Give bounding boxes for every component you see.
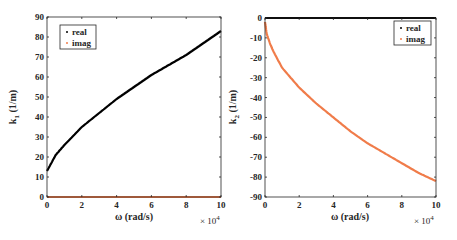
ylabel-k1: k1 (1/m) (7, 90, 21, 124)
legend-k2: real imag (394, 21, 431, 45)
svg-text:real: real (406, 23, 421, 33)
y-tick-label: -30 (250, 73, 262, 83)
x-tick-label: 10 (217, 200, 227, 210)
legend-k1: real imag (60, 25, 96, 49)
y-tick-label: -80 (250, 172, 262, 182)
xlabel-k2: ω (rad/s) (331, 211, 369, 223)
series-imag (265, 22, 436, 181)
y-tick-label: -60 (250, 132, 262, 142)
x-tick-label: 0 (263, 200, 268, 210)
x-tick-label: 2 (297, 200, 302, 210)
x-tick-label: 0 (45, 200, 50, 210)
svg-text:imag: imag (406, 34, 425, 44)
x-tick-label: 8 (400, 200, 405, 210)
y-tick-label: 20 (35, 152, 45, 162)
y-tick-label: 80 (35, 32, 45, 42)
y-tick-label: -50 (250, 112, 262, 122)
y-tick-label: 60 (35, 72, 45, 82)
svg-text:real: real (72, 27, 87, 37)
x-tick-label: 6 (149, 200, 154, 210)
series-real (47, 31, 221, 171)
x-tick-label: 10 (432, 200, 442, 210)
y-tick-label: 90 (35, 12, 45, 22)
ylabel-k2: k2 (1/m) (227, 90, 241, 124)
x-tick-label: 2 (80, 200, 85, 210)
y-tick-label: 10 (35, 172, 45, 182)
y-tick-label: -90 (250, 192, 262, 202)
y-tick-label: 30 (35, 132, 45, 142)
x-tick-label: 4 (331, 200, 336, 210)
xlabel-k1: ω (rad/s) (115, 211, 153, 223)
x-multiplier-k1: × 104 (200, 214, 220, 226)
y-tick-label: 50 (35, 92, 45, 102)
y-tick-label: -10 (250, 33, 262, 43)
x-tick-label: 8 (184, 200, 189, 210)
y-tick-label: 0 (258, 13, 263, 23)
y-tick-label: 70 (35, 52, 45, 62)
y-tick-label: 0 (40, 192, 45, 202)
y-tick-label: -40 (250, 93, 262, 103)
figure: 02468100102030405060708090 02468100-10-2… (0, 0, 457, 240)
y-tick-label: -70 (250, 152, 262, 162)
x-tick-label: 4 (114, 200, 119, 210)
y-tick-label: 40 (35, 112, 45, 122)
x-multiplier-k2: × 104 (414, 214, 434, 226)
y-tick-label: -20 (250, 53, 262, 63)
svg-text:imag: imag (72, 38, 91, 48)
x-tick-label: 6 (365, 200, 370, 210)
